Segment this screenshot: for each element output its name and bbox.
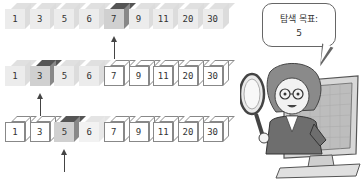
cell-value: 20	[178, 66, 198, 86]
cell-value: 1	[5, 66, 25, 86]
array-cell: 6	[79, 3, 100, 24]
search-target-label: 탐색 목표:	[263, 12, 335, 26]
cell-value: 11	[153, 122, 173, 142]
cell-value: 7	[104, 66, 124, 86]
array-cell: 20	[178, 3, 199, 24]
cell-value: 1	[5, 9, 25, 29]
pointer-arrow-icon	[40, 98, 41, 116]
cell-value: 6	[79, 66, 99, 86]
array-cell: 5	[54, 3, 75, 24]
array-cell: 5	[54, 60, 75, 81]
cell-value: 9	[129, 122, 149, 142]
array-cell: 20	[178, 60, 199, 81]
cell-value: 6	[79, 122, 99, 142]
cell-value: 6	[79, 9, 99, 29]
cell-side-face	[223, 3, 229, 29]
array-cell: 11	[153, 116, 174, 137]
cell-value: 5	[54, 122, 74, 142]
cell-value: 5	[54, 9, 74, 29]
cell-value: 20	[178, 122, 198, 142]
cell-value: 20	[178, 9, 198, 29]
magnifying-glass-icon	[240, 74, 269, 143]
array-cell-active: 5	[54, 116, 75, 137]
array-cell: 9	[129, 3, 150, 24]
array-row-step-1: 135679112030	[0, 3, 230, 43]
array-cell: 30	[203, 116, 224, 137]
array-cell: 11	[153, 3, 174, 24]
array-cell-active: 7	[104, 3, 125, 24]
array-cell: 7	[104, 116, 125, 137]
array-cell: 11	[153, 60, 174, 81]
array-cell-active: 3	[30, 60, 51, 81]
cell-value: 7	[104, 9, 124, 29]
cell-value: 30	[203, 9, 223, 29]
cell-side-face	[223, 60, 229, 86]
array-row-step-3: 135679112030	[0, 116, 230, 156]
array-cell: 30	[203, 60, 224, 81]
cell-value: 1	[5, 122, 25, 142]
array-cell: 7	[104, 60, 125, 81]
array-cell: 6	[79, 116, 100, 137]
cell-side-face	[223, 116, 229, 142]
array-cell: 6	[79, 60, 100, 81]
cell-value: 3	[30, 9, 50, 29]
array-cell: 9	[129, 116, 150, 137]
cell-value: 9	[129, 66, 149, 86]
array-cell: 1	[5, 3, 26, 24]
cell-value: 9	[129, 9, 149, 29]
array-cell: 1	[5, 116, 26, 137]
cell-value: 11	[153, 66, 173, 86]
array-row-step-2: 135679112030	[0, 60, 230, 100]
cell-value: 3	[30, 122, 50, 142]
array-cell: 9	[129, 60, 150, 81]
speech-bubble: 탐색 목표: 5	[262, 3, 336, 47]
cell-value: 5	[54, 66, 74, 86]
array-cell: 3	[30, 116, 51, 137]
pointer-arrow-icon	[64, 154, 65, 172]
cell-value: 30	[203, 66, 223, 86]
array-cell: 3	[30, 3, 51, 24]
cell-value: 11	[153, 9, 173, 29]
array-cell: 20	[178, 116, 199, 137]
array-cell: 1	[5, 60, 26, 81]
cell-value: 3	[30, 66, 50, 86]
cell-value: 30	[203, 122, 223, 142]
array-cell: 30	[203, 3, 224, 24]
search-target-value: 5	[263, 26, 335, 40]
pointer-arrow-icon	[114, 41, 115, 59]
cell-value: 7	[104, 122, 124, 142]
character-with-magnifier-illustration	[240, 62, 362, 179]
